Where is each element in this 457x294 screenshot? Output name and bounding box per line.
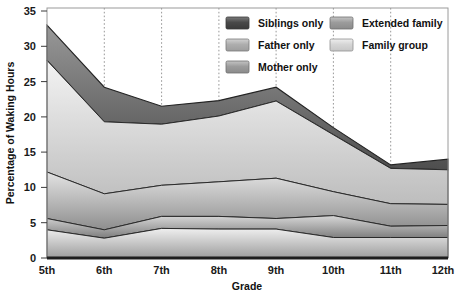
- x-tick-label-8th: 8th: [211, 264, 228, 276]
- x-axis-title: Grade: [232, 280, 263, 292]
- y-axis-title: Percentage of Waking Hours: [4, 62, 16, 205]
- legend-item-family-group[interactable]: Family group: [330, 39, 428, 51]
- legend-item-father-only[interactable]: Father only: [226, 39, 315, 51]
- legend-label-siblings-only: Siblings only: [258, 17, 323, 29]
- legend-swatch-family-group: [330, 39, 353, 51]
- y-tick-labels: 35 30 25 20 15 10 5 0: [24, 5, 36, 264]
- x-tick-label-11th: 11th: [380, 264, 402, 276]
- area-chart: 35 30 25 20 15 10 5 0 Percentage of Waki…: [0, 0, 457, 294]
- chart-container: 35 30 25 20 15 10 5 0 Percentage of Waki…: [0, 0, 457, 294]
- legend-swatch-mother-only: [226, 61, 249, 73]
- legend-item-siblings-only[interactable]: Siblings only: [226, 17, 323, 29]
- x-tick-label-10th: 10th: [322, 264, 345, 276]
- y-tick-label-10: 10: [24, 181, 36, 193]
- x-tick-label-6th: 6th: [96, 264, 113, 276]
- legend-label-family-group: Family group: [362, 39, 428, 51]
- legend-item-extended-family[interactable]: Extended family: [330, 17, 443, 29]
- x-tick-labels: 5th 6th 7th 8th 9th 10th 11th 12th: [39, 264, 455, 276]
- y-tick-label-25: 25: [24, 76, 36, 88]
- y-axis: [41, 11, 47, 258]
- y-tick-label-15: 15: [24, 146, 36, 158]
- x-tick-label-12th: 12th: [432, 264, 455, 276]
- legend-label-father-only: Father only: [258, 39, 315, 51]
- legend-item-mother-only[interactable]: Mother only: [226, 61, 318, 73]
- x-tick-label-7th: 7th: [153, 264, 170, 276]
- legend-swatch-father-only: [226, 39, 249, 51]
- legend-label-mother-only: Mother only: [258, 61, 318, 73]
- x-tick-label-9th: 9th: [268, 264, 285, 276]
- legend-swatch-siblings-only: [226, 17, 249, 29]
- y-tick-label-0: 0: [30, 252, 36, 264]
- legend-label-extended-family: Extended family: [362, 17, 443, 29]
- y-tick-label-20: 20: [24, 111, 36, 123]
- legend-swatch-extended-family: [330, 17, 353, 29]
- y-tick-label-35: 35: [24, 5, 36, 17]
- x-tick-label-5th: 5th: [39, 264, 56, 276]
- y-tick-label-30: 30: [24, 40, 36, 52]
- y-tick-label-5: 5: [30, 217, 36, 229]
